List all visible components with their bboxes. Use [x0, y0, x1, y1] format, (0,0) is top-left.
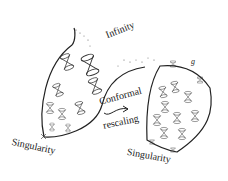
right-light-cones: [150, 61, 204, 153]
label-metric-g: g: [191, 57, 195, 66]
